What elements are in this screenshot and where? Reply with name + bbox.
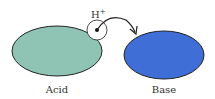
base-label: Base: [152, 84, 176, 95]
acid-label: Acid: [45, 84, 69, 95]
acid-base-diagram: H+ Acid Base: [0, 0, 215, 99]
proton-label: H+: [91, 8, 106, 20]
base-ellipse: [124, 31, 204, 79]
